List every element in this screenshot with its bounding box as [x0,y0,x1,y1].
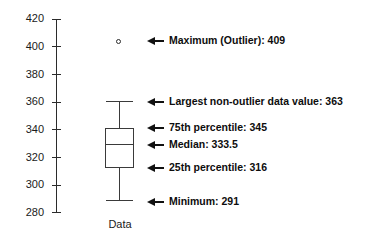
annotation-25th-percentile: 25th percentile: 316 [147,162,267,173]
y-tick-320 [52,157,61,158]
box-plot-figure: 420 400 380 360 340 320 300 280 Data Max… [0,0,383,238]
annotation-median: Median: 333.5 [147,139,238,150]
left-arrow-icon [147,123,164,132]
annotation-75th-percentile: 75th percentile: 345 [147,122,267,133]
y-tick-label-340: 340 [10,124,44,135]
y-tick-420 [52,19,61,20]
left-arrow-icon [147,197,164,206]
y-tick-400 [52,46,61,47]
annotation-label: Median: 333.5 [169,139,238,150]
annotation-minimum: Minimum: 291 [147,196,239,207]
y-tick-label-360: 360 [10,96,44,107]
y-tick-360 [52,102,61,103]
annotation-label: Largest non-outlier data value: 363 [169,96,343,107]
annotation-maximum-outlier: Maximum (Outlier): 409 [147,35,285,46]
median-line [105,144,134,145]
left-arrow-icon [147,163,164,172]
y-tick-label-420: 420 [10,13,44,24]
y-tick-340 [52,129,61,130]
left-arrow-icon [147,97,164,106]
y-axis-line [56,19,57,213]
y-tick-label-280: 280 [10,207,44,218]
y-tick-label-400: 400 [10,41,44,52]
y-tick-380 [52,74,61,75]
annotation-label: 25th percentile: 316 [169,162,267,173]
annotation-largest-non-outlier: Largest non-outlier data value: 363 [147,96,343,107]
y-tick-280 [52,212,61,213]
left-arrow-icon [147,140,164,149]
y-tick-label-320: 320 [10,152,44,163]
outlier-point-409 [116,39,121,44]
lower-whisker-cap [106,200,133,201]
annotation-label: Maximum (Outlier): 409 [169,35,285,46]
y-tick-300 [52,185,61,186]
upper-whisker-stem [119,101,120,128]
left-arrow-icon [147,36,164,45]
box-iqr [105,128,134,168]
annotation-label: Minimum: 291 [169,196,239,207]
y-tick-label-380: 380 [10,69,44,80]
category-label-data: Data [99,218,141,230]
lower-whisker-stem [119,168,120,201]
y-tick-label-300: 300 [10,179,44,190]
annotation-label: 75th percentile: 345 [169,122,267,133]
